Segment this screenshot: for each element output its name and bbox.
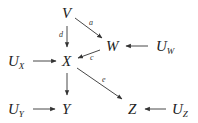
- node-w: W: [106, 38, 120, 54]
- node-v: V: [62, 5, 73, 21]
- node-y: Y: [62, 101, 72, 117]
- diagram-canvas: a d c e V W X Y Z UW UX UY UZ: [0, 0, 198, 123]
- node-u-y: UY: [8, 101, 25, 119]
- node-u-z: UZ: [172, 101, 189, 119]
- edge-label-a: a: [89, 18, 93, 27]
- edge-label-e: e: [102, 75, 106, 84]
- edge-label-c: c: [90, 53, 94, 62]
- edge-w-x: [78, 50, 100, 58]
- node-u-x: UX: [8, 53, 25, 71]
- edge-label-d: d: [59, 30, 64, 39]
- node-x: X: [61, 53, 72, 69]
- node-z: Z: [128, 101, 137, 117]
- edge-x-z: [77, 68, 122, 99]
- causal-diagram: a d c e V W X Y Z UW UX UY UZ: [0, 0, 198, 123]
- node-u-w: UW: [156, 38, 176, 56]
